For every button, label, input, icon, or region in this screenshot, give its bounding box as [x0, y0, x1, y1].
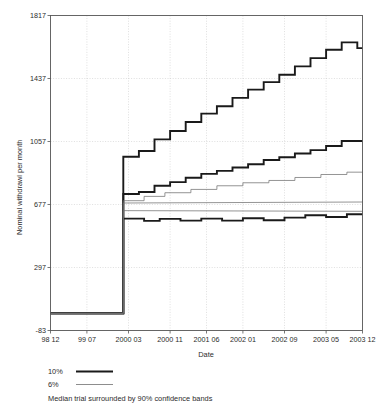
x-tick-label: 98 12 [42, 335, 60, 344]
legend-caption: Median trial surrounded by 90% confidenc… [48, 394, 213, 403]
y-tick-label: 1057 [30, 137, 46, 146]
y-tick-label: 297 [34, 263, 46, 272]
x-tick-label: 2003 12 [350, 335, 376, 344]
x-tick-label: 2002 01 [230, 335, 256, 344]
y-tick-label: -83 [36, 326, 46, 335]
x-tick-label: 2003 05 [313, 335, 339, 344]
y-axis-title: Nominal withdrawl per month [15, 140, 24, 235]
figure-background [0, 0, 390, 413]
y-tick-label: 677 [34, 200, 46, 209]
y-tick-label: 1437 [30, 74, 46, 83]
legend-label-6pct: 6% [48, 380, 59, 389]
x-tick-label: 2001 06 [194, 335, 220, 344]
legend-label-10pct: 10% [48, 367, 63, 376]
x-tick-label: 2000 11 [157, 335, 182, 344]
y-tick-label: 1817 [30, 11, 46, 20]
x-tick-label: 2002 09 [272, 335, 298, 344]
chart-figure: Nominal withdrawl per month -83297677105… [0, 0, 390, 413]
x-tick-label: 2000 03 [116, 335, 142, 344]
x-axis-title: Date [198, 350, 214, 359]
x-tick-label: 99 07 [78, 335, 96, 344]
